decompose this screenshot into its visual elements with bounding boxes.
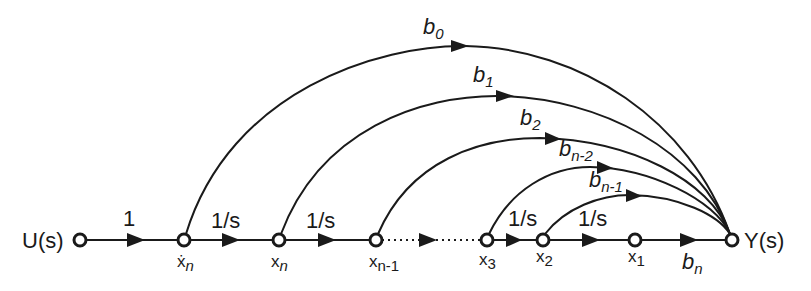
gain-label-b1: b1 [473, 62, 494, 90]
node-x1 [629, 234, 641, 246]
arrow-icon [222, 233, 240, 247]
gain-label-inv-s: 1/s [211, 208, 240, 233]
arrow-icon [680, 233, 698, 247]
gain-label-bn: bn [682, 249, 703, 277]
signal-flow-graph: U(s) Y(s) 1 1/s 1/s 1/s 1/s bn b0 b1 b2 … [0, 0, 811, 291]
node-label-x1: x1 [628, 247, 645, 269]
node-label-x2: x2 [536, 247, 553, 269]
arrow-icon [127, 233, 145, 247]
node-y [726, 234, 738, 246]
arrow-icon [451, 40, 469, 52]
arc-b0 [186, 46, 730, 234]
node-xdotn [178, 234, 190, 246]
node-u [74, 234, 86, 246]
arrow-icon [626, 189, 642, 202]
arc-bn1 [545, 195, 730, 234]
arc-b1 [281, 96, 730, 234]
node-xn [273, 234, 285, 246]
input-label: U(s) [22, 228, 64, 253]
gain-label-1: 1 [123, 206, 135, 231]
node-label-x3: x3 [479, 250, 496, 272]
gain-label-inv-s: 1/s [578, 206, 607, 231]
arrow-icon [582, 233, 600, 247]
gain-label-b2: b2 [520, 105, 541, 133]
node-xn1 [370, 234, 382, 246]
gain-label-inv-s: 1/s [306, 208, 335, 233]
output-label: Y(s) [744, 228, 784, 253]
gain-label-bn1: bn-1 [589, 167, 623, 195]
feedforward-arcs [186, 46, 730, 234]
gain-label-inv-s: 1/s [508, 206, 537, 231]
gain-label-b0: b0 [423, 14, 444, 42]
node-label-xn1: xn-1 [369, 252, 399, 274]
node-label-xdotn: ẋn [177, 252, 194, 274]
arrow-icon [496, 90, 514, 102]
arrow-icon [506, 233, 522, 247]
node-label-xn: xn [271, 252, 288, 274]
arc-b2 [378, 138, 730, 234]
node-x3 [481, 234, 493, 246]
arrow-icon [419, 233, 437, 247]
node-x2 [537, 234, 549, 246]
arrow-icon [318, 233, 336, 247]
